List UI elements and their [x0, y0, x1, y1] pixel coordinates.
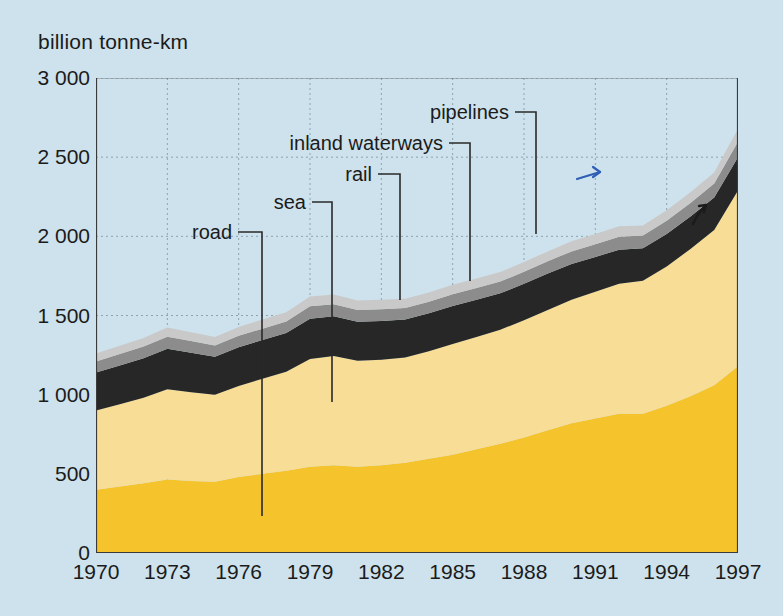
x-tick-label: 1997 — [715, 560, 762, 584]
x-tick-label: 1970 — [73, 560, 120, 584]
leader-line-pipelines — [515, 112, 536, 234]
y-tick-label: 2 500 — [16, 145, 90, 169]
leader-line-inland-waterways — [449, 143, 470, 281]
y-axis-tick-labels: 05001 0001 5002 0002 5003 000 — [4, 78, 90, 553]
x-tick-label: 1988 — [501, 560, 548, 584]
y-tick-label: 3 000 — [16, 66, 90, 90]
x-tick-label: 1985 — [429, 560, 476, 584]
x-tick-label: 1973 — [144, 560, 191, 584]
annotation-label-rail: rail — [345, 163, 372, 186]
y-tick-label: 1 000 — [16, 383, 90, 407]
y-axis-title: billion tonne-km — [38, 30, 188, 54]
chart-figure: billion tonne-km 05001 0001 5002 0002 50… — [0, 0, 783, 616]
y-tick-label: 500 — [16, 462, 90, 486]
y-tick-label: 1 500 — [16, 304, 90, 328]
area-bands — [96, 129, 738, 553]
x-tick-label: 1991 — [572, 560, 619, 584]
blue-arrow-annotation — [577, 167, 600, 179]
x-axis-tick-labels: 1970197319761979198219851988199119941997 — [96, 560, 738, 594]
annotation-label-sea: sea — [274, 191, 306, 214]
y-tick-label: 2 000 — [16, 224, 90, 248]
annotation-label-inland-waterways: inland waterways — [290, 132, 443, 155]
leader-line-rail — [378, 174, 400, 300]
x-tick-label: 1976 — [215, 560, 262, 584]
x-tick-label: 1982 — [358, 560, 405, 584]
annotation-label-road: road — [192, 221, 232, 244]
annotation-label-pipelines: pipelines — [430, 101, 509, 124]
x-tick-label: 1994 — [643, 560, 690, 584]
x-tick-label: 1979 — [287, 560, 334, 584]
